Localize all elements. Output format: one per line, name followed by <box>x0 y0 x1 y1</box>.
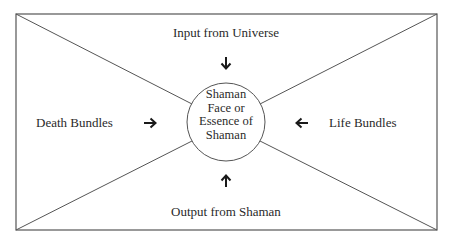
center-line-4: Shaman <box>187 129 265 143</box>
death-bundles-label: Death Bundles <box>36 116 113 129</box>
center-line-3: Essence of <box>187 115 265 129</box>
shaman-diagram: Input from Universe Death Bundles Life B… <box>0 0 452 239</box>
life-bundles-label: Life Bundles <box>329 116 397 129</box>
center-line-2: Face or <box>187 102 265 116</box>
input-from-universe-label: Input from Universe <box>160 26 292 39</box>
output-from-shaman-label: Output from Shaman <box>160 205 292 218</box>
center-line-1: Shaman <box>187 88 265 102</box>
shaman-face-label: Shaman Face or Essence of Shaman <box>187 88 265 142</box>
